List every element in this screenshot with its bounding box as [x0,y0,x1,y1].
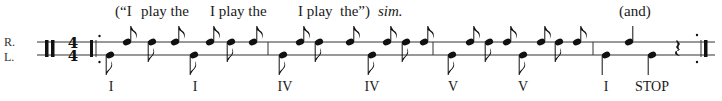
lyric-text: I play the [210,2,267,20]
chord-label: V [518,78,528,96]
percussion-clef-icon [45,40,49,57]
note-icon [367,51,377,75]
note-icon [484,38,494,62]
note-icon [419,26,434,46]
note-icon [147,38,157,62]
lyric-text: (“I [115,2,132,20]
chord-label: V [448,78,458,96]
note-icon [314,38,324,62]
note-icon [401,38,411,62]
note-icon [572,26,587,46]
chord-label: I [604,78,609,96]
lyric-text: I play [298,2,333,20]
note-icon [465,26,480,46]
chord-label: IV [365,78,380,96]
lyric-text: play the [141,2,189,20]
note-icon [248,26,263,46]
repeat-start-icon [90,40,93,57]
note-icon [189,51,199,75]
note-icon [447,51,457,75]
note-icon [624,26,634,46]
note-icon [278,51,288,75]
note-icon [647,51,657,75]
lyric-text: (and) [619,2,651,20]
note-icon [122,26,137,46]
lyric-text: sim. [378,2,403,20]
note-icon [518,51,528,75]
note-icon [226,38,236,62]
note-icon [382,26,397,46]
lyric-text: the”) [340,2,370,20]
note-icon [345,26,360,46]
note-icon [601,51,611,75]
chord-label: IV [278,78,293,96]
svg-text:4: 4 [68,47,78,65]
chord-label: STOP [635,78,669,96]
note-icon [536,26,551,46]
note-icon [295,26,310,46]
note-icon [170,26,185,46]
chord-label: I [193,78,198,96]
chord-label: I [109,78,114,96]
note-icon [502,26,517,46]
note-icon [105,51,115,75]
note-icon [205,26,220,46]
note-icon [554,38,564,62]
time-signature: 4 4 [68,34,78,65]
